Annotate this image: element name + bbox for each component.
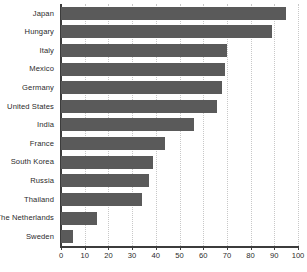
bar	[61, 81, 222, 94]
tick-mark	[132, 247, 133, 250]
category-axis-labels: JapanHungaryItalyMexicoGermanyUnited Sta…	[0, 4, 58, 246]
tick-mark	[203, 247, 204, 250]
tick-mark	[251, 247, 252, 250]
bar	[61, 193, 142, 206]
bar	[61, 44, 227, 57]
tick-mark	[61, 247, 62, 250]
bar-row	[61, 116, 298, 135]
tick-mark	[180, 247, 181, 250]
tick-mark	[298, 247, 299, 250]
tick-label: 0	[59, 252, 63, 260]
category-label: South Korea	[0, 153, 58, 172]
tick-mark	[274, 247, 275, 250]
tick-label: 20	[104, 252, 112, 260]
bar-row	[61, 134, 298, 153]
bar	[61, 63, 225, 76]
tick-label: 40	[152, 252, 160, 260]
category-label: Thailand	[0, 190, 58, 209]
tick-label: 60	[199, 252, 207, 260]
bar	[61, 25, 272, 38]
category-label: Mexico	[0, 60, 58, 79]
bar	[61, 100, 217, 113]
bar-row	[61, 78, 298, 97]
bar-row	[61, 41, 298, 60]
category-label: Russia	[0, 171, 58, 190]
tick-label: 100	[292, 252, 305, 260]
category-label: Sweden	[0, 227, 58, 246]
tick-label: 70	[223, 252, 231, 260]
category-label: United States	[0, 97, 58, 116]
bar	[61, 212, 97, 225]
category-label: India	[0, 116, 58, 135]
category-label: Italy	[0, 41, 58, 60]
bar	[61, 174, 149, 187]
plot-area	[61, 4, 298, 246]
tick-mark	[156, 247, 157, 250]
bar-row	[61, 227, 298, 246]
category-label: Hungary	[0, 23, 58, 42]
category-label: France	[0, 134, 58, 153]
tick-mark	[108, 247, 109, 250]
bar-row	[61, 60, 298, 79]
bar	[61, 230, 73, 243]
tick-label: 30	[128, 252, 136, 260]
bar-row	[61, 4, 298, 23]
tick-mark	[85, 247, 86, 250]
bar-row	[61, 190, 298, 209]
bar	[61, 7, 286, 20]
bar-series	[61, 4, 298, 246]
tick-label: 90	[270, 252, 278, 260]
tick-label: 50	[175, 252, 183, 260]
bar-row	[61, 153, 298, 172]
bar-row	[61, 209, 298, 228]
tick-label: 10	[80, 252, 88, 260]
category-label: Japan	[0, 4, 58, 23]
x-axis-ticks: 0102030405060708090100	[61, 247, 298, 267]
tick-label: 80	[246, 252, 254, 260]
bar-row	[61, 171, 298, 190]
bar	[61, 156, 153, 169]
category-label: Germany	[0, 78, 58, 97]
tick-mark	[227, 247, 228, 250]
bar-chart: JapanHungaryItalyMexicoGermanyUnited Sta…	[0, 0, 307, 272]
bar	[61, 118, 194, 131]
gridline	[298, 4, 300, 246]
bar-row	[61, 97, 298, 116]
category-label: The Netherlands	[0, 209, 58, 228]
bar-row	[61, 23, 298, 42]
bar	[61, 137, 165, 150]
